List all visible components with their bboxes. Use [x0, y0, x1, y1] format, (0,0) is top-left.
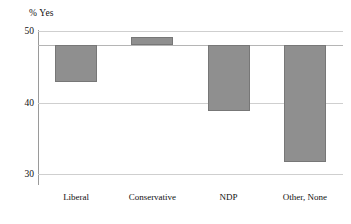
plot-area: 504030: [38, 20, 343, 185]
y-tick-label-40: 40: [25, 98, 35, 108]
y-axis-spine: [38, 30, 39, 185]
bar-other-none: [284, 45, 326, 162]
y-tick-label-30: 30: [25, 169, 35, 179]
y-axis-title: % Yes: [29, 8, 54, 18]
gridline-50: [38, 31, 343, 32]
category-label-0: Liberal: [63, 192, 89, 202]
bar-conservative: [131, 37, 173, 46]
bar-liberal: [55, 45, 97, 82]
category-label-3: Other, None: [283, 192, 327, 202]
bar-chart: % Yes 504030 LiberalConservativeNDPOther…: [0, 0, 351, 224]
category-label-2: NDP: [220, 192, 238, 202]
category-label-1: Conservative: [129, 192, 177, 202]
bar-ndp: [208, 45, 250, 111]
gridline-30: [38, 174, 343, 175]
y-tick-label-50: 50: [25, 26, 35, 36]
